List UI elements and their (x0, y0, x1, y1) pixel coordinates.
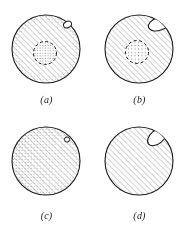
sphere-diagram-d (93, 116, 186, 208)
figure-grid: (a) (0, 0, 186, 233)
inner-inclusion-a (34, 42, 57, 65)
figure-panel-b: (b) (93, 0, 186, 116)
figure-panel-d: (d) (93, 116, 186, 233)
surface-bubble-c (64, 137, 69, 142)
sphere-diagram-b (93, 0, 186, 92)
panel-caption-c: (c) (41, 211, 53, 221)
panel-caption-b: (b) (133, 95, 145, 105)
panel-caption-d: (d) (133, 211, 145, 221)
rim-stipple-c (0, 116, 93, 208)
sphere-body-d (93, 116, 186, 208)
panel-caption-a: (a) (40, 95, 52, 105)
hatch-fill-d (93, 116, 186, 208)
figure-panel-c: (c) (0, 116, 93, 233)
sphere-diagram-a (0, 0, 93, 92)
sphere-diagram-c (0, 116, 93, 208)
inner-inclusion-b (126, 41, 149, 64)
figure-panel-a: (a) (0, 0, 93, 116)
sphere-body-c (0, 116, 93, 208)
